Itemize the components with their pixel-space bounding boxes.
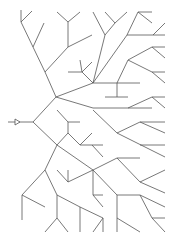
branch-segment [127, 12, 138, 35]
branch-segment [22, 170, 45, 195]
branch-segment [80, 133, 92, 145]
branch-segment [68, 133, 80, 145]
branch-lines [8, 10, 165, 232]
branch-segment [45, 145, 57, 170]
tree-diagram [0, 0, 173, 241]
branch-segment [33, 122, 57, 145]
branch-segment [115, 12, 127, 23]
branch-segment [93, 35, 105, 83]
branch-segment [105, 12, 115, 23]
branch-segment [128, 47, 152, 60]
branch-segment [80, 60, 82, 72]
branch-segment [128, 60, 152, 72]
branch-segment [82, 72, 93, 83]
branch-segment [57, 195, 80, 207]
branch-segment [57, 110, 68, 122]
branch-segment [93, 12, 105, 35]
branch-segment [140, 195, 165, 207]
branch-segment [152, 97, 165, 108]
branch-segment [82, 62, 92, 72]
branch-segment [45, 72, 56, 97]
branch-segment [117, 218, 140, 232]
branch-segment [117, 60, 128, 83]
branch-segment [80, 207, 103, 218]
branch-segment [93, 158, 117, 170]
branch-segment [57, 145, 93, 170]
branch-segment [21, 11, 32, 22]
branch-segment [138, 12, 152, 23]
branch-segment [33, 97, 56, 122]
branch-segment [105, 23, 115, 35]
branch-segment [56, 83, 93, 97]
branch-segment [22, 195, 45, 207]
branch-segment [140, 182, 165, 193]
branch-segment [68, 170, 93, 182]
branch-segment [57, 12, 68, 22]
branch-segment [117, 122, 140, 133]
branch-segment [152, 218, 165, 232]
branch-segment [93, 110, 117, 133]
branch-segment [117, 158, 140, 182]
branch-segment [93, 35, 127, 83]
branch-segment [57, 170, 68, 182]
branch-segment [45, 218, 57, 232]
branch-segment [140, 170, 165, 182]
branch-segment [152, 72, 165, 83]
branch-segment [68, 12, 80, 22]
branch-segment [153, 23, 165, 35]
branch-segment [128, 97, 152, 108]
root-arrow-icon [15, 119, 20, 125]
branch-segment [57, 133, 68, 145]
branch-segment [68, 35, 92, 47]
branch-segment [93, 170, 117, 195]
branch-segment [45, 47, 68, 72]
branch-segment [140, 122, 165, 133]
branch-segment [57, 218, 68, 232]
branch-segment [93, 218, 103, 232]
branch-segment [152, 47, 165, 58]
branch-segment [140, 195, 152, 218]
branch-segment [93, 195, 103, 207]
branch-segment [33, 23, 44, 47]
branch-segment [56, 97, 93, 108]
branch-segment [92, 145, 103, 157]
branch-segment [45, 170, 57, 195]
